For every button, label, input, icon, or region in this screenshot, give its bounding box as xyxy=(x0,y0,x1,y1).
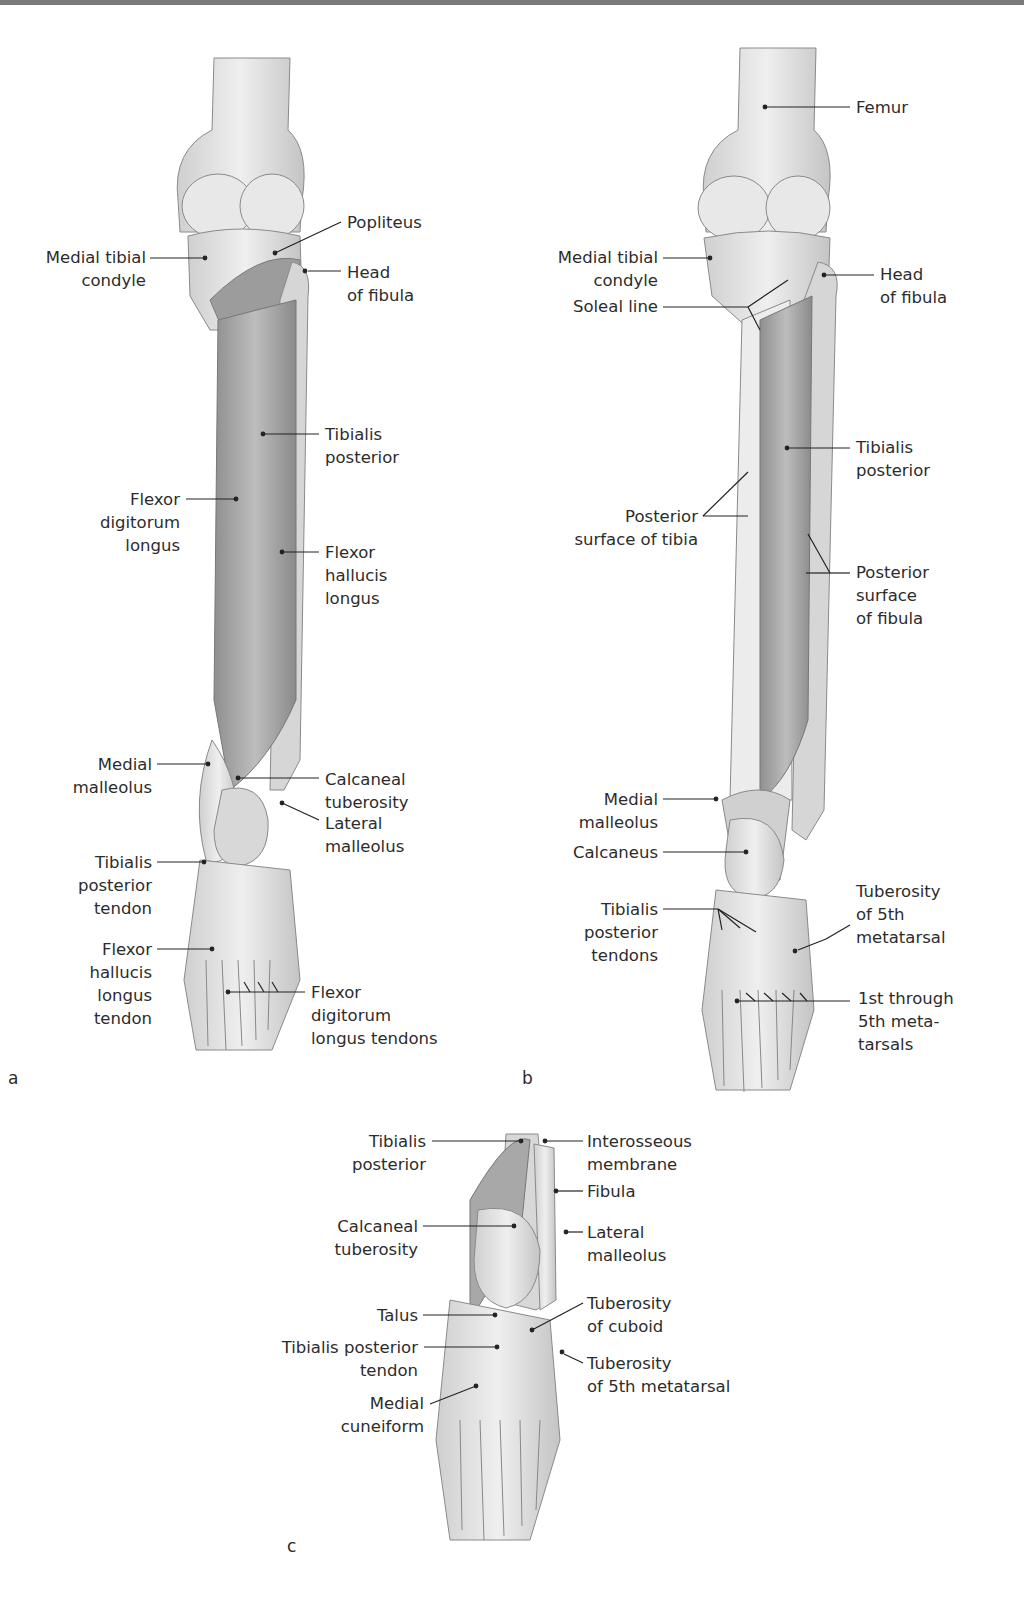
label-lateral-malleolus-c: Lateral malleolus xyxy=(587,1221,666,1267)
label-flexor-digitorum-longus-tendons: Flexor digitorum longus tendons xyxy=(311,981,438,1050)
label-tuberosity-of-cuboid: Tuberosity of cuboid xyxy=(587,1292,672,1338)
label-medial-tibial-condyle-a: Medial tibial condyle xyxy=(40,246,146,292)
label-flexor-hallucis-longus: Flexor hallucis longus xyxy=(325,541,387,610)
panel-c-foot xyxy=(436,1134,560,1540)
label-lateral-malleolus-a: Lateral malleolus xyxy=(325,812,404,858)
label-calcaneus: Calcaneus xyxy=(540,841,658,864)
label-tuberosity-of-5th-metatarsal-c: Tuberosity of 5th metatarsal xyxy=(587,1352,730,1398)
anatomy-illustration xyxy=(0,0,1024,1620)
label-posterior-surface-of-tibia: Posterior surface of tibia xyxy=(560,505,698,551)
label-calcaneal-tuberosity-c: Calcaneal tuberosity xyxy=(300,1215,418,1261)
panel-letter-a: a xyxy=(8,1068,18,1088)
label-talus: Talus xyxy=(320,1304,418,1327)
panel-letter-b: b xyxy=(522,1068,533,1088)
label-soleal-line: Soleal line xyxy=(540,295,658,318)
panel-letter-c: c xyxy=(287,1536,296,1556)
label-fibula: Fibula xyxy=(587,1180,636,1203)
label-tibialis-posterior-tendon-a: Tibialis posterior tendon xyxy=(40,851,152,920)
label-calcaneal-tuberosity-a: Calcaneal tuberosity xyxy=(325,768,408,814)
label-medial-tibial-condyle-b: Medial tibial condyle xyxy=(540,246,658,292)
label-medial-malleolus-b: Medial malleolus xyxy=(560,788,658,834)
label-head-of-fibula-a: Head of fibula xyxy=(347,261,414,307)
label-head-of-fibula-b: Head of fibula xyxy=(880,263,947,309)
label-medial-malleolus-a: Medial malleolus xyxy=(40,753,152,799)
label-posterior-surface-of-fibula: Posterior surface of fibula xyxy=(856,561,929,630)
label-tibialis-posterior-c: Tibialis posterior xyxy=(320,1130,426,1176)
panel-a-leg xyxy=(177,58,308,1050)
label-tuberosity-of-5th-metatarsal-b: Tuberosity of 5th metatarsal xyxy=(856,880,945,949)
label-medial-cuneiform: Medial cuneiform xyxy=(320,1392,424,1438)
label-flexor-digitorum-longus: Flexor digitorum longus xyxy=(60,488,180,557)
label-tibialis-posterior-b: Tibialis posterior xyxy=(856,436,930,482)
label-tibialis-posterior-tendons: Tibialis posterior tendons xyxy=(560,898,658,967)
label-femur: Femur xyxy=(856,96,908,119)
label-flexor-hallucis-longus-tendon: Flexor hallucis longus tendon xyxy=(40,938,152,1030)
label-tibialis-posterior-a: Tibialis posterior xyxy=(325,423,399,469)
panel-b-leg xyxy=(698,48,837,1092)
label-interosseous-membrane: Interosseous membrane xyxy=(587,1130,692,1176)
label-metatarsals: 1st through 5th meta- tarsals xyxy=(858,987,954,1056)
label-tibialis-posterior-tendon-c: Tibialis posterior tendon xyxy=(260,1336,418,1382)
label-popliteus: Popliteus xyxy=(347,211,422,234)
